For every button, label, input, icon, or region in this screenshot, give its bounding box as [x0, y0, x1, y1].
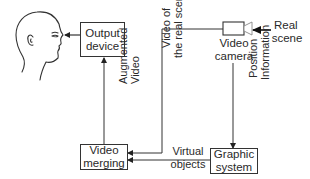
augmented-video-label: Augmented Video [117, 28, 141, 84]
video-merging-label-line1: Video [83, 144, 125, 157]
graphic-system-label-line2: system [214, 161, 254, 174]
real-scene-label-line1: Real [270, 19, 304, 32]
virtual-objects-label-line2: objects [168, 158, 208, 171]
graphic-system-box: Graphic system [210, 148, 258, 174]
virtual-objects-label-line1: Virtual [168, 145, 208, 158]
human-head-icon [16, 12, 63, 80]
video-merging-label-line2: merging [83, 157, 125, 170]
position-information-label-line1: Position [247, 25, 259, 80]
position-information-label: Position Information [247, 25, 271, 80]
augmented-video-label-line2: Video [129, 28, 141, 84]
position-information-label-line2: Information [259, 25, 271, 80]
video-merging-box: Video merging [80, 144, 128, 170]
graphic-system-label-line1: Graphic [214, 148, 254, 161]
augmented-video-label-line1: Augmented [117, 28, 129, 84]
real-scene-label-line2: scene [270, 32, 304, 45]
output-device-label-line2: device [85, 40, 120, 53]
real-scene-label: Real scene [270, 19, 304, 45]
video-of-real-scenery-label-line1: Video of [160, 0, 172, 58]
output-device-label-line1: Output [85, 27, 120, 40]
video-of-real-scenery-label-line2: the real scenery [172, 0, 184, 58]
virtual-objects-label: Virtual objects [168, 145, 208, 171]
video-of-real-scenery-label: Video of the real scenery [160, 0, 184, 58]
